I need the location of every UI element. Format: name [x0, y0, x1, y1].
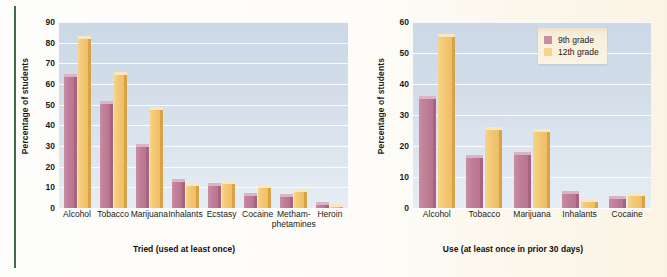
bar-ecstasy-12th-grade — [222, 181, 235, 208]
y-axis-tick-label: 10 — [33, 183, 55, 192]
legend-swatch-12th-grade — [544, 48, 552, 56]
bar-top — [609, 196, 626, 199]
bar-side — [268, 188, 271, 208]
bar-top — [330, 204, 343, 207]
x-axis-label-line: Heroin — [306, 210, 354, 220]
bar-face — [514, 152, 528, 208]
bar-face — [136, 144, 146, 208]
bar-tobacco-12th-grade — [485, 127, 502, 208]
bar-side — [340, 207, 343, 208]
bar-face — [438, 34, 452, 208]
bar-tobacco-9th-grade — [466, 155, 483, 208]
bar-face — [208, 183, 218, 208]
bar-top — [533, 129, 550, 132]
bar-top — [172, 179, 185, 182]
bar-side — [290, 197, 293, 208]
bar-cocaine-12th-grade — [258, 185, 271, 208]
y-axis-title-right: Percentage of students — [376, 58, 386, 154]
bar-side — [595, 202, 598, 208]
bar-top — [100, 101, 113, 104]
bar-face — [100, 101, 110, 208]
x-axis-title-left: Tried (used at least once) — [14, 244, 354, 254]
bar-side — [88, 39, 91, 208]
y-axis-tick-label: 20 — [387, 142, 409, 151]
bar-top — [150, 107, 163, 110]
x-axis-title-right: Use (at least once in prior 30 days) — [368, 244, 658, 254]
y-axis-tick-label: 30 — [33, 142, 55, 151]
bar-side — [124, 75, 127, 208]
legend-item-12th-grade: 12th grade — [544, 47, 599, 57]
bar-side — [499, 130, 502, 208]
bar-face — [222, 181, 232, 208]
bar-cocaine-9th-grade — [244, 193, 257, 209]
y-axis-tick-label: 60 — [387, 18, 409, 27]
chart-panel-tried: Percentage of students 01020304050607080… — [14, 0, 354, 277]
bar-side — [146, 147, 149, 208]
bar-side — [480, 158, 483, 208]
bar-face — [258, 185, 268, 208]
bar-top — [419, 96, 436, 99]
bar-top — [244, 193, 257, 196]
x-axis-label: Heroin — [306, 210, 354, 220]
bar-top — [186, 183, 199, 186]
bar-top — [438, 34, 455, 37]
bar-face — [533, 129, 547, 208]
y-axis-tick-label: 30 — [387, 111, 409, 120]
legend-swatch-9th-grade — [544, 36, 552, 44]
bar-top — [280, 194, 293, 197]
bar-side — [326, 205, 329, 208]
y-axis-tick-label: 50 — [33, 100, 55, 109]
bar-metham--phetamines-9th-grade — [280, 194, 293, 208]
bar-side — [232, 184, 235, 208]
bar-face — [172, 179, 182, 208]
figure-canvas: Percentage of students 01020304050607080… — [0, 0, 667, 277]
y-axis-tick-label: 90 — [33, 18, 55, 27]
bar-top — [514, 152, 531, 155]
bar-inhalants-9th-grade — [562, 191, 579, 208]
bar-top — [485, 127, 502, 130]
bar-marijuana-9th-grade — [514, 152, 531, 208]
bar-face — [114, 72, 124, 208]
bar-cocaine-12th-grade — [628, 193, 645, 209]
chart-panel-use: Percentage of students 0102030405060 Alc… — [368, 0, 658, 277]
bar-metham--phetamines-12th-grade — [294, 189, 307, 208]
bar-side — [528, 155, 531, 208]
legend: 9th grade 12th grade — [538, 28, 607, 64]
bar-alcohol-12th-grade — [78, 36, 91, 208]
bar-heroin-9th-grade — [316, 202, 329, 208]
bar-marijuana-12th-grade — [533, 129, 550, 208]
bar-side — [254, 196, 257, 209]
y-axis-tick-label: 10 — [387, 173, 409, 182]
bar-tobacco-9th-grade — [100, 101, 113, 208]
x-axis-label-line: phetamines — [270, 220, 318, 230]
bar-side — [452, 37, 455, 208]
bar-side — [74, 77, 77, 208]
bar-side — [547, 132, 550, 208]
bar-alcohol-9th-grade — [419, 96, 436, 208]
bar-face — [78, 36, 88, 208]
x-axis-label: Cocaine — [597, 210, 657, 220]
bar-group-container-right — [413, 22, 651, 208]
bar-side — [218, 186, 221, 208]
bar-top — [294, 189, 307, 192]
bar-top — [222, 181, 235, 184]
bar-side — [110, 104, 113, 208]
bar-top — [208, 183, 221, 186]
bar-top — [316, 202, 329, 205]
y-axis-tick-label: 70 — [33, 59, 55, 68]
y-axis-tick-label: 40 — [387, 80, 409, 89]
x-axis-label-line: Cocaine — [597, 210, 657, 220]
bar-face — [466, 155, 480, 208]
bar-side — [576, 194, 579, 208]
legend-label-12th-grade: 12th grade — [558, 47, 599, 57]
bar-top — [114, 72, 127, 75]
bar-side — [623, 199, 626, 208]
bar-face — [419, 96, 433, 208]
bar-face — [186, 183, 196, 208]
bar-ecstasy-9th-grade — [208, 183, 221, 208]
y-axis-title-left: Percentage of students — [20, 58, 30, 154]
bar-top — [78, 36, 91, 39]
bar-face — [64, 74, 74, 208]
bar-top — [581, 199, 598, 202]
bar-marijuana-9th-grade — [136, 144, 149, 208]
